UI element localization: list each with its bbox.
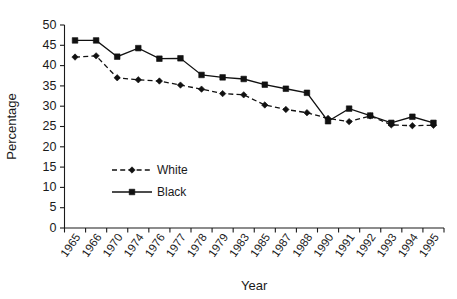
- data-point-marker: [135, 77, 141, 83]
- data-point-marker: [220, 75, 226, 81]
- data-point-marker: [241, 92, 247, 98]
- data-point-marker: [304, 90, 310, 96]
- data-point-marker: [199, 72, 205, 78]
- data-point-marker: [135, 45, 141, 51]
- y-tick-label: 20: [43, 140, 57, 154]
- legend-marker-square-icon: [129, 189, 135, 195]
- data-point-marker: [241, 76, 247, 82]
- data-point-marker: [409, 122, 415, 128]
- y-tick-label: 35: [43, 79, 57, 93]
- data-point-marker: [114, 75, 120, 81]
- data-point-marker: [367, 113, 373, 119]
- y-tick-label: 0: [50, 221, 57, 235]
- y-tick-label: 25: [43, 119, 57, 133]
- y-tick-label: 10: [43, 180, 57, 194]
- y-tick-label: 45: [43, 38, 57, 52]
- data-point-marker: [346, 106, 352, 112]
- data-point-marker: [178, 55, 184, 61]
- y-tick-label: 15: [43, 160, 57, 174]
- legend-item-white: White: [112, 163, 188, 177]
- data-point-marker: [304, 109, 310, 115]
- legend-marker-diamond-icon: [129, 167, 135, 173]
- data-point-marker: [388, 120, 394, 126]
- y-axis-ticks: 05101520253035404550: [43, 18, 65, 235]
- data-point-marker: [325, 118, 331, 124]
- x-tick-label: 1990: [311, 231, 336, 259]
- data-point-marker: [283, 106, 289, 112]
- x-tick-label: 1988: [290, 231, 315, 259]
- data-point-marker: [431, 120, 437, 126]
- series-line: [75, 40, 433, 122]
- data-point-marker: [72, 38, 78, 44]
- data-point-marker: [283, 86, 289, 92]
- data-point-marker: [262, 82, 268, 88]
- x-tick-label: 1987: [269, 231, 294, 259]
- x-tick-label: 1977: [164, 231, 189, 259]
- x-tick-label: 1978: [185, 231, 210, 259]
- data-point-marker: [219, 90, 225, 96]
- x-tick-label: 1995: [417, 231, 442, 259]
- line-chart: 05101520253035404550 1965196619701974197…: [0, 0, 457, 299]
- x-tick-label: 1983: [227, 231, 252, 259]
- data-point-marker: [93, 53, 99, 59]
- x-tick-label: 1985: [248, 231, 273, 259]
- data-point-marker: [156, 78, 162, 84]
- data-point-marker: [114, 54, 120, 60]
- x-tick-label: 1979: [206, 231, 231, 259]
- data-point-marker: [346, 118, 352, 124]
- x-tick-label: 1966: [79, 231, 104, 259]
- y-axis-title: Percentage: [4, 93, 19, 160]
- x-tick-label: 1965: [58, 231, 83, 259]
- data-point-marker: [177, 82, 183, 88]
- x-tick-label: 1974: [121, 231, 146, 259]
- x-tick-label: 1992: [353, 231, 378, 259]
- chart-series-group: [72, 38, 437, 129]
- x-tick-label: 1991: [332, 231, 357, 259]
- x-axis-ticks: 1965196619701974197619771978197919831985…: [58, 228, 444, 259]
- x-tick-label: 1970: [100, 231, 125, 259]
- data-point-marker: [198, 86, 204, 92]
- series-white: [72, 53, 437, 129]
- x-tick-label: 1993: [374, 231, 399, 259]
- data-point-marker: [410, 114, 416, 120]
- x-tick-label: 1976: [143, 231, 168, 259]
- y-tick-label: 5: [50, 200, 57, 214]
- chart-legend: WhiteBlack: [112, 163, 188, 199]
- y-tick-label: 40: [43, 58, 57, 72]
- x-axis-title: Year: [241, 278, 268, 293]
- data-point-marker: [72, 54, 78, 60]
- legend-label: White: [157, 163, 188, 177]
- x-tick-label: 1994: [396, 231, 421, 259]
- y-tick-label: 50: [43, 18, 57, 32]
- chart-canvas: 05101520253035404550 1965196619701974197…: [0, 0, 457, 299]
- data-point-marker: [157, 56, 163, 62]
- series-line: [75, 56, 433, 126]
- y-tick-label: 30: [43, 99, 57, 113]
- data-point-marker: [262, 102, 268, 108]
- data-point-marker: [93, 38, 99, 44]
- series-black: [72, 38, 436, 126]
- legend-item-black: Black: [112, 185, 187, 199]
- legend-label: Black: [157, 185, 187, 199]
